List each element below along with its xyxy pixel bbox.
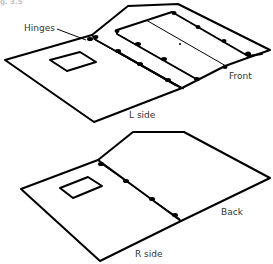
hinge-icon [172, 11, 177, 15]
hinges-top [87, 11, 251, 82]
hinge-icon [172, 213, 178, 217]
front-panel-inner-frame [117, 12, 262, 56]
hinge-icon [194, 77, 200, 81]
hinge-icon [245, 52, 251, 57]
hinge-icon [87, 37, 93, 41]
hinge-icon [98, 162, 104, 166]
hinge-icon [137, 62, 143, 66]
bottom-assembly: Back R side [21, 132, 270, 261]
l-side-panel [5, 35, 182, 122]
hinge-icon [123, 179, 129, 183]
hinge-icon [135, 42, 141, 46]
hinge-icon [161, 57, 167, 61]
hinge-icon [165, 78, 171, 82]
hinge-icon [149, 197, 155, 201]
top-assembly: Hinges Front L side [5, 4, 270, 122]
front-rail-4 [96, 40, 176, 86]
hinges-leader-line [57, 29, 86, 40]
l-side-label: L side [129, 110, 156, 120]
r-side-panel [21, 160, 181, 261]
r-side-window [60, 177, 102, 198]
front-label: Front [229, 71, 252, 81]
hinged-panels-diagram: g. 3.5 [0, 0, 273, 264]
hinge-icon [179, 43, 181, 45]
figure-caption-fragment: g. 3.5 [0, 0, 23, 6]
front-panel-inner-frame-left [117, 30, 198, 80]
l-side-window [50, 52, 96, 71]
hinge-icon [115, 49, 121, 53]
hinge-axis-line [100, 163, 180, 219]
hinge-icon [115, 29, 120, 33]
front-rail-1 [146, 20, 226, 66]
hinge-icon [196, 25, 201, 29]
hinge-icon [94, 35, 99, 39]
r-side-label: R side [135, 249, 163, 259]
back-label: Back [221, 207, 244, 217]
back-panel [98, 132, 270, 221]
hinge-icon [222, 39, 227, 43]
hinge-icon [223, 65, 228, 69]
hinges-label: Hinges [24, 23, 55, 33]
front-rail-3 [116, 50, 184, 89]
